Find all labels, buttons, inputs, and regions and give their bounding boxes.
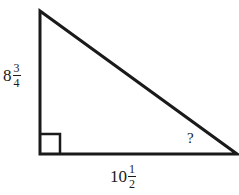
horizontal-leg-fraction: 1 2	[128, 163, 136, 190]
vertical-leg-whole: 8	[3, 67, 12, 84]
horizontal-leg-denominator: 2	[129, 177, 135, 190]
vertical-leg-denominator: 4	[14, 76, 20, 89]
vertical-leg-label: 8 3 4	[3, 62, 21, 89]
horizontal-leg-numerator: 1	[128, 163, 136, 177]
vertical-leg-fraction: 3 4	[13, 62, 21, 89]
unknown-angle-label: ?	[187, 130, 194, 147]
horizontal-leg-whole: 10	[110, 168, 127, 185]
triangle	[40, 11, 237, 154]
horizontal-leg-label: 10 1 2	[110, 163, 136, 190]
right-angle-marker	[41, 134, 60, 153]
vertical-leg-numerator: 3	[13, 62, 21, 76]
